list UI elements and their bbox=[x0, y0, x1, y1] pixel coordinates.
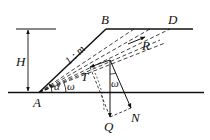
label-q: Q bbox=[104, 119, 114, 134]
label-alpha: α bbox=[54, 80, 60, 92]
label-omega-force: ω bbox=[111, 77, 119, 89]
omega-arc-base bbox=[64, 83, 66, 93]
label-a: A bbox=[32, 95, 41, 110]
label-omega-base: ω bbox=[67, 80, 75, 92]
label-h: H bbox=[15, 54, 26, 69]
label-d: D bbox=[167, 12, 178, 27]
n-component-dashed bbox=[110, 108, 131, 117]
label-n: N bbox=[130, 110, 141, 125]
slope-diagram: A B D H 1 : m α ω ω T R Q N bbox=[0, 0, 210, 140]
label-t: T bbox=[81, 69, 89, 84]
label-b: B bbox=[101, 12, 109, 27]
omega-arc-force bbox=[110, 73, 116, 74]
label-r: R bbox=[141, 38, 150, 53]
